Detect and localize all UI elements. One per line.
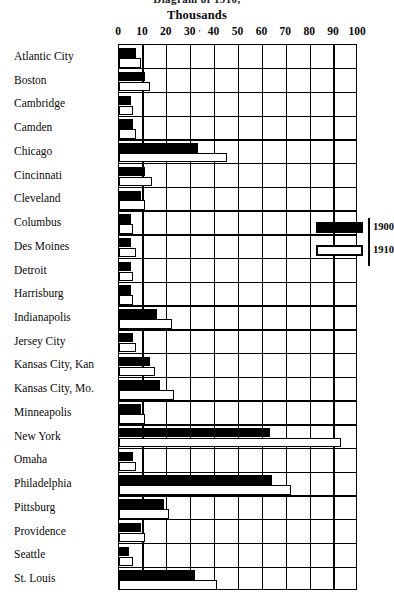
gridline-horizontal xyxy=(119,495,356,496)
gridline-horizontal xyxy=(119,424,356,425)
gridline-horizontal xyxy=(119,448,356,449)
bar-1900 xyxy=(119,452,133,461)
gridline-vertical-60 xyxy=(262,45,263,589)
gridline-horizontal xyxy=(119,92,356,93)
gridline-vertical-30 xyxy=(190,45,191,589)
gridline-vertical-50 xyxy=(238,45,239,589)
category-label-camden: Camden xyxy=(14,121,52,133)
x-tick-label-80: 80 xyxy=(303,25,315,37)
bar-1910 xyxy=(119,177,152,186)
category-label-minneapolis: Minneapolis xyxy=(14,406,72,418)
x-tick-label-20: 20 xyxy=(160,25,172,37)
bar-1900 xyxy=(119,48,136,57)
bar-1910 xyxy=(119,200,145,209)
bar-1900 xyxy=(119,119,133,128)
bar-1910 xyxy=(119,390,174,399)
legend-swatch-1910-icon xyxy=(316,245,363,256)
bar-1910 xyxy=(119,580,217,589)
category-label-st-louis: St. Louis xyxy=(14,572,56,584)
x-tick-label-0: 0 xyxy=(115,25,121,37)
bar-1900 xyxy=(119,380,160,389)
bar-1900 xyxy=(119,428,270,437)
bar-1900 xyxy=(119,333,133,342)
category-label-columbus: Columbus xyxy=(14,216,61,228)
bar-1910 xyxy=(119,438,341,447)
category-label-cincinnati: Cincinnati xyxy=(14,169,62,181)
x-tick-label-70: 70 xyxy=(280,25,292,37)
category-axis-labels: Atlantic CityBostonCambridgeCamdenChicag… xyxy=(0,44,114,590)
bar-1900 xyxy=(119,499,164,508)
bar-chart-figure: Diagram of 1910, Thousands 0102030405060… xyxy=(0,0,394,594)
x-tick-label-100: 100 xyxy=(348,25,365,37)
gridline-vertical-70 xyxy=(286,45,287,589)
category-label-omaha: Omaha xyxy=(14,453,47,465)
legend-label-1900: 1900 xyxy=(373,221,394,232)
bar-1900 xyxy=(119,285,131,294)
category-label-atlantic-city: Atlantic City xyxy=(14,50,74,62)
chart-legend: 1900 1910 xyxy=(308,218,394,268)
bar-1900 xyxy=(119,523,141,532)
category-label-cleveland: Cleveland xyxy=(14,192,61,204)
chart-subtitle-thousands: Thousands xyxy=(0,8,394,23)
legend-divider xyxy=(368,218,370,266)
bar-1900 xyxy=(119,309,157,318)
bar-1900 xyxy=(119,570,195,579)
category-label-providence: Providence xyxy=(14,525,66,537)
x-tick-label-30: 30 xyxy=(184,25,196,37)
bar-1900 xyxy=(119,357,150,366)
bar-1910 xyxy=(119,414,145,423)
x-tick-label-40: 40 xyxy=(208,25,220,37)
gridline-horizontal xyxy=(119,187,356,188)
category-label-pittsburg: Pittsburg xyxy=(14,501,55,513)
bar-1910 xyxy=(119,367,155,376)
gridline-horizontal xyxy=(119,139,356,140)
gridline-horizontal xyxy=(119,472,356,473)
x-axis-tick-labels: 0102030405060708090100' xyxy=(0,25,394,41)
bar-1910 xyxy=(119,462,136,471)
bar-1910 xyxy=(119,82,150,91)
category-label-boston: Boston xyxy=(14,74,47,86)
bar-1900 xyxy=(119,167,145,176)
gridline-vertical-20 xyxy=(166,45,167,589)
bar-1900 xyxy=(119,238,131,247)
gridline-horizontal xyxy=(119,543,356,544)
bar-1910 xyxy=(119,509,169,518)
bar-1910 xyxy=(119,224,133,233)
bar-1900 xyxy=(119,72,145,81)
x-tick-label-50: 50 xyxy=(232,25,244,37)
gridline-vertical-40 xyxy=(214,45,215,589)
gridline-horizontal xyxy=(119,329,356,330)
gridline-vertical-90 xyxy=(333,45,334,589)
gridline-horizontal xyxy=(119,68,356,69)
bar-1900 xyxy=(119,262,131,271)
category-label-kansas-city-kan: Kansas City, Kan xyxy=(14,358,94,370)
bar-1900 xyxy=(119,547,129,556)
category-label-seattle: Seattle xyxy=(14,548,45,560)
bar-1910 xyxy=(119,153,227,162)
gridline-horizontal xyxy=(119,400,356,401)
category-label-harrisburg: Harrisburg xyxy=(14,287,64,299)
bar-1910 xyxy=(119,248,136,257)
category-label-detroit: Detroit xyxy=(14,264,47,276)
gridline-horizontal xyxy=(119,305,356,306)
figure-clipped-title: Diagram of 1910, xyxy=(0,0,394,5)
x-tick-label-60: 60 xyxy=(256,25,268,37)
gridline-horizontal xyxy=(119,377,356,378)
category-label-des-moines: Des Moines xyxy=(14,240,69,252)
category-label-indianapolis: Indianapolis xyxy=(14,311,71,323)
bar-1900 xyxy=(119,214,131,223)
category-label-philadelphia: Philadelphia xyxy=(14,477,72,489)
gridline-horizontal xyxy=(119,210,356,211)
bar-1910 xyxy=(119,319,172,328)
bar-1910 xyxy=(119,485,291,494)
gridline-horizontal xyxy=(119,163,356,164)
category-label-kansas-city-mo: Kansas City, Mo. xyxy=(14,382,94,394)
category-label-cambridge: Cambridge xyxy=(14,97,65,109)
bar-1900 xyxy=(119,96,131,105)
bar-1910 xyxy=(119,533,145,542)
gridline-horizontal xyxy=(119,519,356,520)
x-tick-label-10: 10 xyxy=(136,25,148,37)
gridline-vertical-80 xyxy=(310,45,311,589)
bar-1910 xyxy=(119,557,133,566)
bar-1900 xyxy=(119,475,272,484)
